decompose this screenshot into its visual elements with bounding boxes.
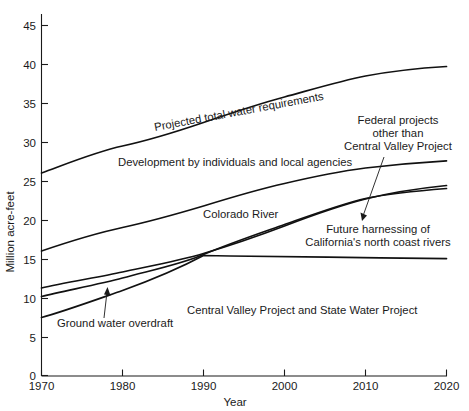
x-tick-group (42, 370, 447, 377)
x-tick-label-2020: 2020 (434, 380, 460, 392)
annotation-projected-total-water-requirements: Projected total water requirements (153, 90, 325, 133)
annotation-future-harnessing-group: Future harnessing of California's north … (305, 223, 451, 248)
y-tick-label-15: 15 (23, 254, 36, 266)
annotation-future-harnessing-line-2: California's north coast rivers (305, 236, 451, 248)
chart-container: 0 5 10 15 20 25 30 35 40 45 1970 1980 19… (0, 0, 469, 411)
x-tick-label-1990: 1990 (191, 380, 217, 392)
x-tick-labels: 1970 1980 1990 2000 2010 2020 (29, 380, 460, 392)
x-tick-label-1970: 1970 (29, 380, 55, 392)
x-axis-title: Year (223, 396, 246, 408)
y-tick-label-45: 45 (23, 20, 36, 32)
annotation-federal-projects-group: Federal projects other than Central Vall… (344, 114, 453, 221)
y-tick-labels: 0 5 10 15 20 25 30 35 40 45 (23, 20, 36, 382)
line-chart: 0 5 10 15 20 25 30 35 40 45 1970 1980 19… (0, 0, 469, 411)
annotation-ground-water-overdraft: Ground water overdraft (57, 317, 174, 329)
y-axis-title: Million acre-feet (4, 191, 16, 273)
y-tick-label-25: 25 (23, 176, 36, 188)
y-tick-label-40: 40 (23, 59, 36, 71)
x-tick-label-2000: 2000 (272, 380, 298, 392)
annotation-federal-projects-line-1: Federal projects (358, 114, 439, 126)
annotation-future-harnessing-line-1: Future harnessing of (326, 223, 430, 235)
y-tick-label-5: 5 (30, 332, 36, 344)
annotation-federal-projects-line-3: Central Valley Project (344, 140, 453, 152)
y-tick-label-10: 10 (23, 293, 36, 305)
y-tick-label-30: 30 (23, 137, 36, 149)
annotation-central-valley-project-and-state-water-project: Central Valley Project and State Water P… (187, 304, 418, 316)
annotation-ground-water-overdraft-arrowhead (104, 287, 111, 296)
x-tick-label-1980: 1980 (110, 380, 136, 392)
x-tick-label-2010: 2010 (353, 380, 379, 392)
annotation-colorado-river: Colorado River (203, 208, 279, 220)
y-tick-label-20: 20 (23, 215, 36, 227)
annotation-federal-projects-leader-line (363, 157, 384, 216)
y-tick-label-35: 35 (23, 98, 36, 110)
annotation-federal-projects-line-2: other than (373, 127, 424, 139)
annotation-development-by-individuals-and-local-agencies: Development by individuals and local age… (118, 156, 353, 168)
y-tick-group (42, 26, 49, 376)
